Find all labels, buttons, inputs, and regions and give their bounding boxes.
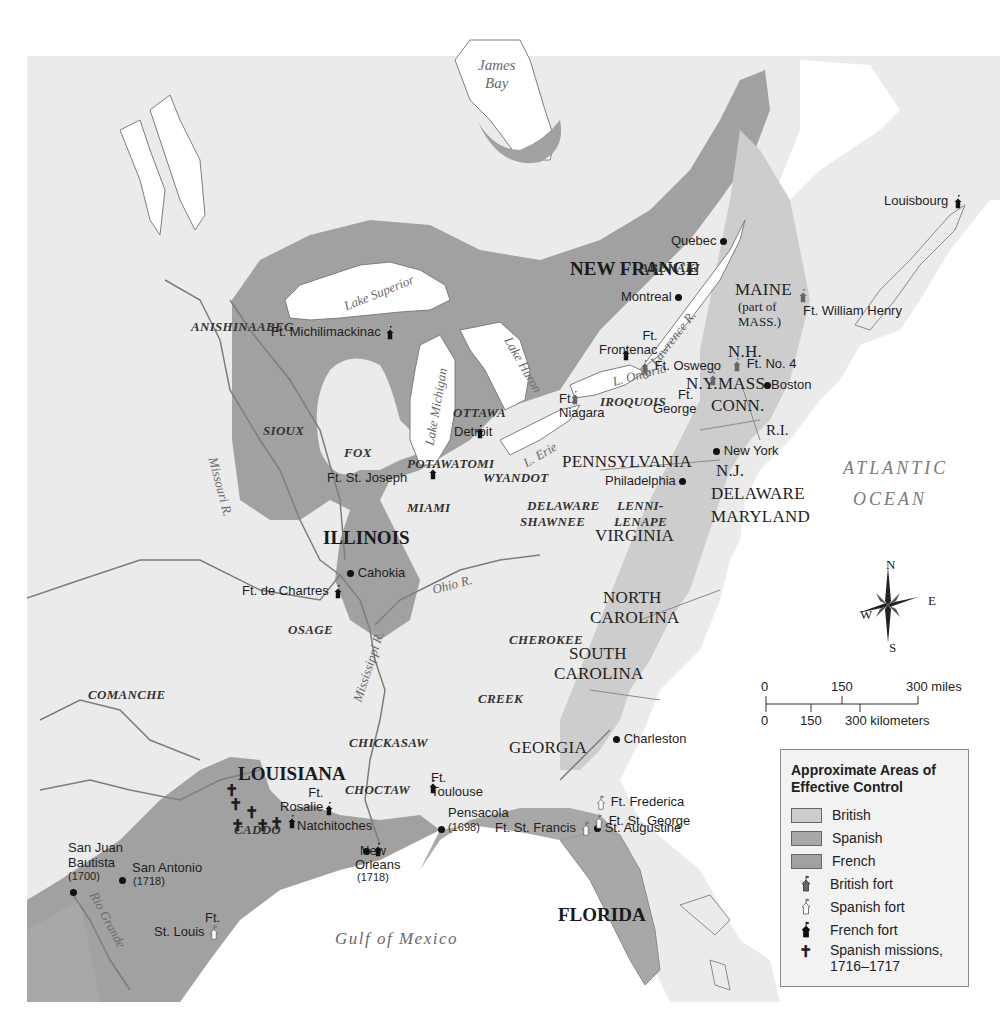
fort-st-louis: Ft.St. Louis <box>154 911 220 941</box>
city-pensacola-year: (1698) <box>448 822 480 834</box>
british-swatch <box>791 808 822 823</box>
label-nj: N.J. <box>716 462 744 480</box>
fort-louisbourg: Louisbourg <box>884 194 964 210</box>
fort-st-joseph: Ft. St. Joseph <box>327 471 407 485</box>
legend-item-spanish-missions: ✝ Spanish missions, 1716–1717 <box>791 942 958 982</box>
spanish-fort-icon <box>595 795 607 811</box>
legend-title: Approximate Areas of Effective Control <box>791 762 958 796</box>
spanish-mission-icon: ✝ <box>229 797 242 814</box>
fort-william-henry: Ft. William Henry <box>797 288 902 318</box>
city-charleston: Charleston <box>613 732 687 746</box>
french-fort-icon <box>323 801 335 817</box>
san-juan-dot <box>70 889 77 896</box>
label-georgia: GEORGIA <box>509 739 587 757</box>
fort-michilimackinac: Ft. Michilimackinac <box>271 325 396 341</box>
fort-st-francis: Ft. St. Francis <box>495 821 592 837</box>
label-south-carolina-2: CAROLINA <box>554 665 643 683</box>
label-atlantic-1: ATLANTIC <box>843 459 948 478</box>
legend-item-british: British <box>791 804 958 827</box>
label-pennsylvania: PENNSYLVANIA <box>562 453 692 471</box>
city-san-juan-2: Bautista <box>68 856 115 870</box>
fort-de-chartres: Ft. de Chartres <box>242 584 344 600</box>
label-mass: MASS. <box>718 375 770 393</box>
tribe-delaware-shawnee-1: DELAWARE <box>527 499 599 513</box>
label-north-carolina-1: NORTH <box>603 589 662 607</box>
french-fort-icon <box>372 842 384 858</box>
tribe-cherokee: CHEROKEE <box>509 633 583 647</box>
spanish-fort-icon <box>208 925 220 941</box>
legend-item-spanish-fort: Spanish fort <box>791 896 958 919</box>
city-philadelphia: Philadelphia <box>605 474 686 488</box>
label-atlantic-2: OCEAN <box>853 490 927 509</box>
tribe-choctaw: CHOCTAW <box>345 783 410 797</box>
french-fort-icon <box>620 346 632 362</box>
label-conn: CONN. <box>711 397 764 415</box>
tribe-fox: FOX <box>344 446 372 460</box>
british-fort-icon <box>731 357 743 373</box>
tribe-wyandot: WYANDOT <box>483 471 548 485</box>
spanish-fort-icon <box>580 821 592 837</box>
fort-st-george: Ft. St. George <box>593 814 690 830</box>
legend-item-british-fort: British fort <box>791 873 958 896</box>
city-dot <box>720 238 727 245</box>
french-fort-icon <box>427 779 439 795</box>
legend-item-french: French <box>791 850 958 873</box>
french-swatch <box>791 854 822 869</box>
spanish-mission-icon: ✝ <box>231 818 244 835</box>
fort-george: Ft.George <box>675 388 696 415</box>
city-montreal: Montreal <box>621 290 682 304</box>
tribe-sioux: SIOUX <box>263 424 304 438</box>
british-fort-icon <box>797 288 809 304</box>
label-james-bay-2: Bay <box>485 76 508 92</box>
tribe-lenni-lenape-1: LENNI- <box>617 499 664 513</box>
label-louisiana: LOUISIANA <box>238 764 346 784</box>
city-san-juan-year: (1700) <box>68 871 100 883</box>
scale-miles-300: 300 miles <box>906 679 962 694</box>
map: N S E W 0 150 300 miles 0 150 300 kilome… <box>27 28 1000 1002</box>
tribe-abenaki: ABENAKI <box>640 261 700 275</box>
label-gulf-of-mexico: Gulf of Mexico <box>335 930 458 948</box>
spanish-swatch <box>791 831 822 846</box>
british-fort-icon <box>569 390 581 406</box>
tribe-comanche: COMANCHE <box>88 688 166 702</box>
french-fort-icon <box>952 194 964 210</box>
british-fort-icon <box>791 875 820 893</box>
city-new-orleans-2: Orleans <box>355 858 401 872</box>
label-south-carolina-1: SOUTH <box>569 645 627 663</box>
fort-no4: Ft. No. 4 <box>731 357 796 373</box>
label-maine: MAINE <box>735 281 792 299</box>
scale-miles-150: 150 <box>831 679 853 694</box>
tribe-osage: OSAGE <box>288 623 333 637</box>
compass-s: S <box>889 641 896 655</box>
british-fort-icon <box>707 371 719 387</box>
spanish-mission-icon: ✝ <box>791 942 820 961</box>
tribe-lenni-lenape-2: LENAPE <box>614 515 667 529</box>
scale-km-300: 300 kilometers <box>845 713 930 728</box>
french-fort-icon <box>474 424 486 440</box>
tribe-creek: CREEK <box>478 692 523 706</box>
label-james-bay-1: James <box>478 58 516 74</box>
pensacola-dot <box>438 826 445 833</box>
scale-km-150: 150 <box>800 713 822 728</box>
legend-item-spanish: Spanish <box>791 827 958 850</box>
city-pensacola: Pensacola <box>448 806 509 820</box>
tribe-miami: MIAMI <box>407 501 450 515</box>
scale-bar: 0 150 300 miles 0 150 300 kilometers <box>760 668 980 728</box>
label-maine-note2: MASS.) <box>738 315 781 329</box>
tribe-delaware-shawnee-2: SHAWNEE <box>520 515 585 529</box>
city-cahokia: Cahokia <box>347 566 405 580</box>
tribe-chickasaw: CHICKASAW <box>349 736 428 750</box>
fort-niagara: Ft.Niagara <box>559 392 605 419</box>
scale-miles-0: 0 <box>761 679 768 694</box>
label-virginia: VIRGINIA <box>595 527 674 545</box>
spanish-mission-icon: ✝ <box>270 816 283 833</box>
fort-rosalie: Ft.Rosalie <box>280 786 323 813</box>
new-orleans-dot <box>363 848 370 855</box>
city-san-antonio: San Antonio <box>132 861 202 875</box>
french-fort-icon <box>384 325 396 341</box>
label-maine-note1: (part of <box>738 300 777 314</box>
french-fort-icon <box>332 584 344 600</box>
label-ri: R.I. <box>766 423 789 439</box>
city-san-juan-1: San Juan <box>68 841 123 855</box>
french-fort-icon <box>286 814 298 830</box>
